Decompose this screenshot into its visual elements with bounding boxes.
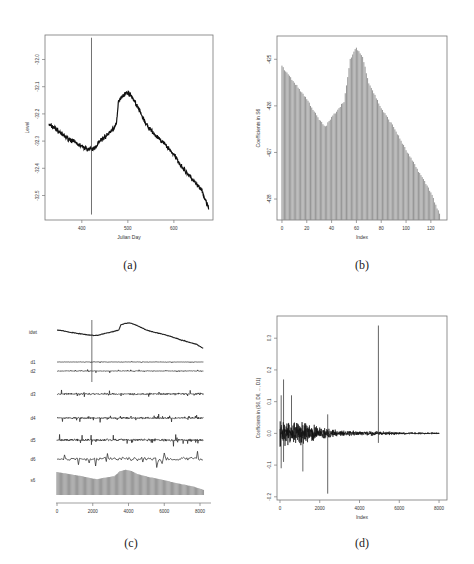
d2-series	[57, 370, 203, 373]
y-tick-label: -0.2	[267, 492, 272, 500]
y-tick-label: 0.2	[267, 366, 272, 373]
caption-b: (b)	[342, 258, 382, 273]
y-tick-label: -425	[267, 54, 272, 64]
y-tick-label: -32.5	[35, 190, 40, 201]
x-tick-label: 8000	[434, 506, 445, 511]
caption-c: (c)	[111, 536, 151, 551]
d4-series	[57, 414, 203, 422]
x-axis-label: Julian Day	[117, 234, 141, 240]
y-tick-label: -32.4	[35, 163, 40, 174]
x-tick-label: 60	[354, 226, 360, 231]
row-label-d1: d1	[30, 360, 36, 365]
d5-series	[57, 434, 203, 446]
caption-a: (a)	[110, 258, 150, 273]
y-tick-label: -32.3	[35, 135, 40, 146]
x-tick-label: 100	[402, 226, 410, 231]
y-axis-label: Level	[24, 122, 30, 134]
row-label-s6: s6	[31, 478, 36, 483]
row-label-d2: d2	[30, 369, 36, 374]
x-tick-label: 2000	[315, 506, 326, 511]
plot-frame	[277, 316, 447, 500]
row-label-d3: d3	[30, 392, 36, 397]
panel-c-mra-decomposition: 02000400060008000idwtd1d2d3d4d5d6s6	[0, 282, 237, 564]
caption-d: (d)	[342, 536, 382, 551]
level-series	[49, 91, 209, 209]
x-tick-label: 4000	[355, 506, 366, 511]
x-tick-label: 0	[56, 509, 59, 514]
y-tick-label: -426	[267, 101, 272, 111]
y-tick-label: -32.2	[35, 108, 40, 119]
y-tick-label: -428	[267, 194, 272, 204]
y-tick-label: -427	[267, 147, 272, 157]
x-tick-label: 0	[279, 506, 282, 511]
y-axis-label: Coefficients in S6	[255, 108, 261, 147]
row-label-d6: d6	[30, 457, 36, 462]
plot-frame	[45, 35, 213, 220]
x-tick-label: 20	[304, 226, 310, 231]
x-tick-label: 120	[427, 226, 435, 231]
panel-a-level-timeseries: 400500600-32.0-32.1-32.2-32.3-32.4-32.5J…	[0, 0, 237, 282]
x-axis-label: Index	[356, 234, 369, 240]
x-tick-label: 40	[329, 226, 335, 231]
coefficient-series	[280, 421, 439, 446]
y-tick-label: 0.0	[267, 430, 272, 437]
x-axis-label: Index	[356, 514, 369, 520]
x-tick-label: 0	[281, 226, 284, 231]
panel-b-s6-coefficients: 020406080100120-425-426-427-428IndexCoef…	[237, 0, 474, 282]
x-tick-label: 500	[124, 226, 132, 231]
y-tick-label: 0.1	[267, 398, 272, 405]
x-tick-label: 2000	[88, 509, 99, 514]
x-tick-label: 80	[379, 226, 385, 231]
idwt-series	[57, 323, 203, 349]
y-tick-label: -0.1	[267, 461, 272, 469]
x-tick-label: 6000	[394, 506, 405, 511]
y-tick-label: -32.1	[35, 81, 40, 92]
row-label-idwt: idwt	[29, 330, 38, 335]
d6-series	[57, 451, 203, 467]
x-tick-label: 8000	[195, 509, 206, 514]
row-label-d5: d5	[30, 438, 36, 443]
d3-series	[57, 390, 203, 397]
plot-frame	[277, 36, 447, 220]
row-label-d4: d4	[30, 416, 36, 421]
x-tick-label: 400	[78, 226, 86, 231]
x-tick-label: 4000	[123, 509, 134, 514]
d1-series	[57, 361, 203, 362]
panel-d-all-coefficients: 020004000600080000.30.20.10.0-0.1-0.2Ind…	[237, 282, 474, 564]
x-tick-label: 600	[170, 226, 178, 231]
y-tick-label: -32.0	[35, 54, 40, 65]
y-tick-label: 0.3	[267, 335, 272, 342]
x-tick-label: 6000	[159, 509, 170, 514]
y-axis-label: Coefficients in (S6, D6, ..., D1)	[256, 377, 261, 438]
